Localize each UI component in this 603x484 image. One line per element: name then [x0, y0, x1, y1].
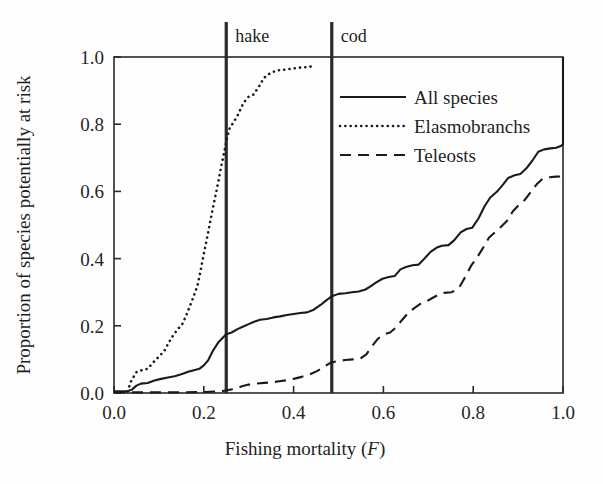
- y-tick-label: 0.2: [80, 316, 104, 337]
- y-tick-label: 1.0: [80, 47, 104, 68]
- chart-legend: All speciesElasmobranchsTeleosts: [340, 87, 530, 166]
- reference-line-label-cod: cod: [341, 26, 367, 46]
- x-tick-label: 0.8: [461, 402, 485, 423]
- y-tick-label: 0.4: [80, 249, 104, 270]
- legend-label-all-species: All species: [414, 87, 498, 108]
- x-tick-label: 0.0: [102, 402, 126, 423]
- y-tick-label: 0.8: [80, 114, 104, 135]
- x-tick-label: 1.0: [551, 402, 575, 423]
- x-axis-title: Fishing mortality (F): [225, 438, 385, 460]
- legend-label-teleosts: Teleosts: [414, 145, 476, 166]
- x-tick-label: 0.2: [192, 402, 216, 423]
- y-tick-label: 0.0: [80, 383, 104, 404]
- y-axis-ticks: [114, 57, 121, 393]
- y-axis-tick-labels: 0.00.20.40.60.81.0: [80, 47, 104, 404]
- x-tick-label: 0.6: [372, 402, 396, 423]
- chart-canvas: 0.00.20.40.60.81.0 0.00.20.40.60.81.0 ha…: [0, 0, 603, 484]
- x-tick-label: 0.4: [282, 402, 306, 423]
- x-axis-ticks: [114, 386, 563, 393]
- reference-lines-group: hakecod: [226, 22, 367, 393]
- x-axis-tick-labels: 0.00.20.40.60.81.0: [102, 402, 575, 423]
- reference-line-label-hake: hake: [235, 26, 269, 46]
- legend-label-elasmobranchs: Elasmobranchs: [414, 116, 530, 137]
- y-tick-label: 0.6: [80, 181, 104, 202]
- y-axis-title: Proportion of species potentially at ris…: [13, 75, 34, 375]
- series-line-elasmobranchs: [127, 66, 312, 391]
- series-line-teleosts: [114, 176, 563, 392]
- chart-figure: 0.00.20.40.60.81.0 0.00.20.40.60.81.0 ha…: [0, 0, 603, 484]
